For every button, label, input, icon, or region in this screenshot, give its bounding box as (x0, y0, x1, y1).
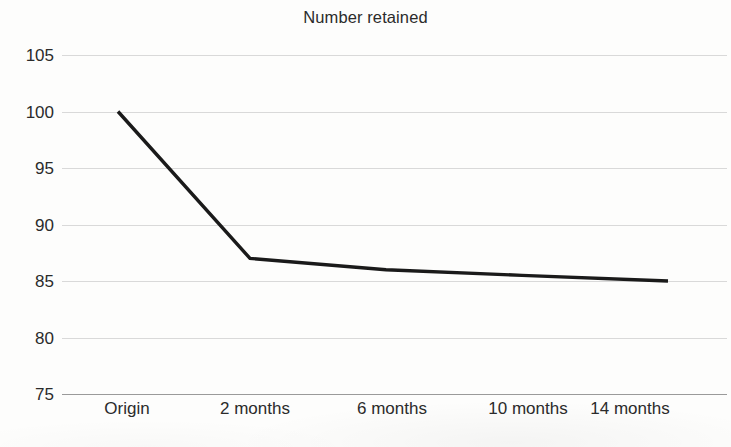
y-tick-label: 100 (8, 103, 54, 120)
line-chart: Number retained 105 100 95 90 85 80 75 O… (0, 0, 731, 447)
y-axis-tick-labels: 105 100 95 90 85 80 75 (0, 55, 54, 394)
plot-area (62, 55, 727, 394)
x-tick-label-2-months: 2 months (220, 400, 290, 419)
x-tick-label-origin: Origin (104, 400, 149, 419)
x-tick-label-6-months: 6 months (357, 400, 427, 419)
chart-title: Number retained (0, 8, 731, 27)
data-series-line (62, 55, 727, 394)
y-tick-label: 90 (8, 216, 54, 233)
y-tick-label: 95 (8, 160, 54, 177)
x-axis-tick-labels: Origin 2 months 6 months 10 months 14 mo… (62, 400, 727, 430)
series-path-number-retained (118, 112, 668, 282)
y-tick-label: 80 (8, 329, 54, 346)
y-tick-label: 85 (8, 273, 54, 290)
x-tick-label-10-months: 10 months (488, 400, 567, 419)
y-tick-label: 105 (8, 47, 54, 64)
y-tick-label: 75 (8, 386, 54, 403)
x-axis-line (62, 394, 727, 395)
x-tick-label-14-months: 14 months (590, 400, 669, 419)
